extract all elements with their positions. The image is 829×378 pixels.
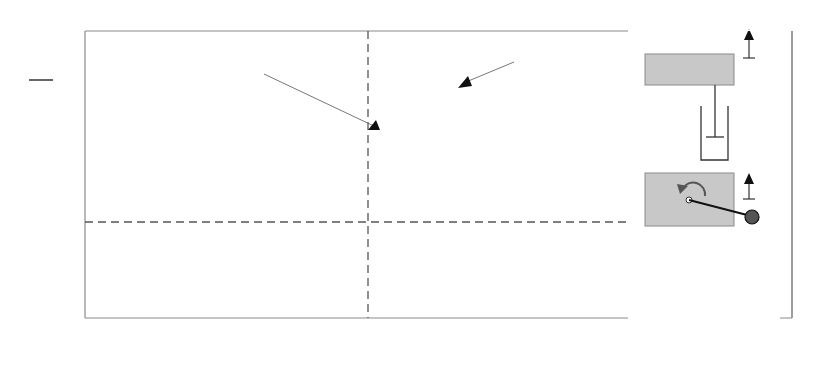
curve-labels (334, 48, 552, 271)
mass-spring-damper-diagram (0, 0, 792, 320)
annotation-line-of-maxima (264, 74, 380, 130)
mass-block (645, 54, 734, 85)
arrowhead-icon (368, 120, 380, 130)
arrowhead-icon (458, 76, 472, 88)
eccentric-mass (745, 210, 759, 224)
line-of-maxima-arrow (264, 74, 376, 127)
frequency-response-plot (0, 0, 829, 378)
